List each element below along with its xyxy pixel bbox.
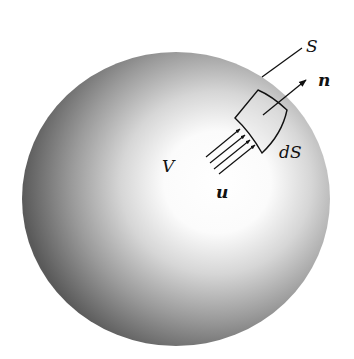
velocity-label: u xyxy=(216,182,228,202)
volume-label: V xyxy=(162,156,176,176)
normal-label: n xyxy=(318,70,330,90)
diagram-canvas: S n V u dS xyxy=(0,0,354,359)
control-volume-sphere xyxy=(22,52,330,346)
surface-element-label: dS xyxy=(279,142,302,162)
surface-leader-line xyxy=(262,48,302,77)
surface-label: S xyxy=(306,36,318,56)
